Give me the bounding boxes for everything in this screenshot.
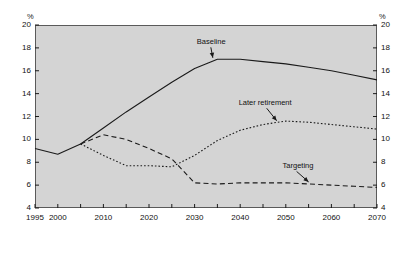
y-tick-label: 18 <box>11 43 31 52</box>
y-tick-label: 16 <box>11 66 31 75</box>
x-tick-label: 2000 <box>41 213 75 222</box>
y-tick-label: 8 <box>11 157 31 166</box>
y-tick-label: 10 <box>11 134 31 143</box>
y-tick-label: 6 <box>11 180 31 189</box>
y-tick-label: 14 <box>11 89 31 98</box>
annotation-label-later-retirement: Later retirement <box>239 98 292 107</box>
y-tick-label: 20 <box>381 20 401 29</box>
annotation-label-baseline: Baseline <box>197 37 226 46</box>
x-tick-label: 2040 <box>223 213 257 222</box>
x-tick-label: 2060 <box>314 213 348 222</box>
y-tick-label: 8 <box>381 157 401 166</box>
y-tick-label: 12 <box>381 112 401 121</box>
y-tick-label: 18 <box>381 43 401 52</box>
y-tick-label: 4 <box>11 203 31 212</box>
x-tick-label: 2070 <box>360 213 394 222</box>
x-tick-label: 2050 <box>269 213 303 222</box>
y-tick-label: 4 <box>381 203 401 212</box>
x-tick-label: 2020 <box>132 213 166 222</box>
plot-area <box>35 25 377 208</box>
chart-container: % % 468101214161820 468101214161820 1995… <box>0 0 412 257</box>
annotation-label-targeting: Targeting <box>283 161 314 170</box>
y-tick-label: 14 <box>381 89 401 98</box>
y-tick-label: 20 <box>11 20 31 29</box>
y-tick-label: 6 <box>381 180 401 189</box>
y-tick-label: 10 <box>381 134 401 143</box>
x-tick-label: 2010 <box>86 213 120 222</box>
x-tick-label: 2030 <box>178 213 212 222</box>
y-tick-label: 12 <box>11 112 31 121</box>
y-tick-label: 16 <box>381 66 401 75</box>
